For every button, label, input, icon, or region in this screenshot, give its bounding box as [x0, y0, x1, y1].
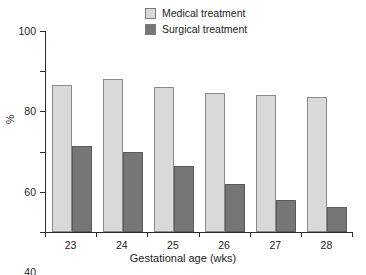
bar-26-surgical — [225, 184, 245, 232]
bar-26-medical — [205, 93, 225, 232]
x-tick — [301, 232, 302, 237]
bar-24-medical — [103, 79, 123, 232]
bar-27-surgical — [276, 200, 296, 232]
y-tick-label: 100 — [18, 25, 36, 37]
x-tick-label: 23 — [65, 239, 77, 251]
bar-27-medical — [256, 95, 276, 232]
y-tick: 100 — [40, 31, 45, 32]
x-tick — [96, 232, 97, 237]
bar-28-medical — [307, 97, 327, 232]
x-tick — [199, 232, 200, 237]
x-tick — [250, 232, 251, 237]
y-tick-label: 60 — [24, 186, 36, 198]
plot-area: 020406080100 232425262728 — [45, 31, 352, 232]
bar-chart-figure: Medical treatment Surgical treatment 020… — [0, 0, 366, 275]
bar-25-surgical — [174, 166, 194, 232]
x-tick-label: 27 — [269, 239, 281, 251]
legend-label-medical: Medical treatment — [162, 8, 245, 19]
bar-23-medical — [52, 85, 72, 232]
x-tick-label: 24 — [116, 239, 128, 251]
bar-24-surgical — [123, 152, 143, 232]
y-tick: 20 — [40, 192, 45, 193]
y-tick: 60 — [40, 111, 45, 112]
x-tick-label: 26 — [218, 239, 230, 251]
legend-swatch-medical-icon — [145, 8, 156, 19]
bar-28-surgical — [327, 207, 347, 232]
x-tick-label: 25 — [167, 239, 179, 251]
x-axis-title: Gestational age (wks) — [0, 252, 366, 264]
x-tick — [352, 232, 353, 237]
y-tick-label: 80 — [24, 105, 36, 117]
y-tick: 80 — [40, 71, 45, 72]
y-axis-title: % — [4, 115, 16, 124]
y-tick-label: 40 — [24, 266, 36, 275]
x-tick — [147, 232, 148, 237]
bar-23-surgical — [72, 146, 92, 232]
legend-item-medical: Medical treatment — [145, 7, 247, 20]
y-axis-line — [45, 31, 46, 232]
bar-25-medical — [154, 87, 174, 232]
y-tick: 40 — [40, 152, 45, 153]
x-tick — [45, 232, 46, 237]
x-tick-label: 28 — [321, 239, 333, 251]
